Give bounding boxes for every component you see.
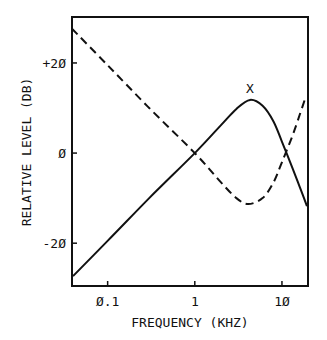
y-tick-label: +2Ø bbox=[43, 56, 67, 71]
x-tick-label: 1Ø bbox=[274, 294, 290, 309]
peak-marker-annotation: X bbox=[246, 81, 254, 96]
x-tick-label: 1 bbox=[191, 294, 199, 309]
x-axis-label: FREQUENCY (KHZ) bbox=[131, 315, 248, 330]
solid-response-curve bbox=[73, 100, 307, 276]
series-layer bbox=[72, 29, 307, 276]
y-tick-label: -2Ø bbox=[43, 236, 67, 251]
y-tick-label: Ø bbox=[58, 146, 66, 161]
y-axis-label: RELATIVE LEVEL (DB) bbox=[19, 78, 34, 227]
x-tick-label: Ø.1 bbox=[96, 294, 119, 309]
frequency-response-chart: Ø.111Ø +2ØØ-2Ø X FREQUENCY (KHZ) RELATIV… bbox=[0, 0, 327, 340]
plot-frame bbox=[72, 17, 308, 286]
